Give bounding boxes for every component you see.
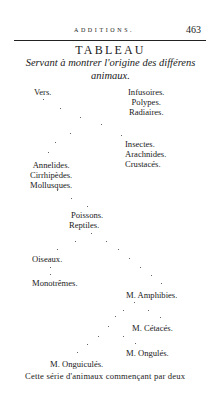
label-annelides: Annelides. bbox=[30, 160, 72, 170]
label-polypes: Polypes. bbox=[128, 97, 165, 107]
label-arachnides: Arachnides. bbox=[125, 149, 166, 159]
label-m-amphibies: M. Amphibies. bbox=[126, 290, 177, 300]
running-head: ADDITIONS. bbox=[74, 27, 134, 33]
label-m-ongules: M. Ongulés. bbox=[126, 348, 169, 358]
table-title: TABLEAU bbox=[0, 43, 221, 58]
label-crustaces: Crustacés. bbox=[125, 159, 166, 169]
header-rule bbox=[14, 40, 206, 41]
label-group-annelides: Annelides. Cirrhipèdes. Mollusques. bbox=[30, 160, 72, 190]
label-mollusques: Mollusques. bbox=[30, 180, 72, 190]
table-subtitle-line2: animaux. bbox=[0, 70, 221, 82]
label-monotremes: Monotrêmes. bbox=[32, 278, 78, 288]
label-m-cetaces: M. Cétacés. bbox=[132, 323, 173, 333]
label-infusoires: Infusoires. bbox=[128, 87, 165, 97]
label-poissons: Poissons. bbox=[69, 210, 103, 220]
label-group-infusoires: Infusoires. Polypes. Radiaires. bbox=[128, 87, 165, 117]
label-m-onguicules: M. Onguiculés. bbox=[50, 359, 103, 369]
table-subtitle-line1: Servant à montrer l'origine des différen… bbox=[0, 57, 221, 69]
label-insectes: Insectes. bbox=[125, 139, 166, 149]
label-group-insectes: Insectes. Arachnides. Crustacés. bbox=[125, 139, 166, 169]
page-number: 463 bbox=[186, 24, 201, 35]
label-radiaires: Radiaires. bbox=[128, 107, 165, 117]
body-text-line: Cette série d'animaux commençant par deu… bbox=[25, 371, 185, 381]
label-oiseaux: Oiseaux. bbox=[32, 254, 62, 264]
label-group-poissons: Poissons. Reptiles. bbox=[69, 210, 103, 230]
label-vers: Vers. bbox=[34, 87, 51, 97]
label-cirrhipedes: Cirrhipèdes. bbox=[30, 170, 72, 180]
label-reptiles: Reptiles. bbox=[69, 220, 103, 230]
